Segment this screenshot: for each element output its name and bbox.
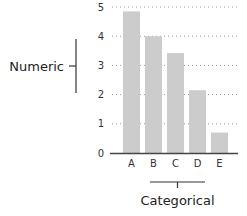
y-tick-label: 4	[98, 31, 104, 42]
numeric-label: Numeric	[9, 59, 64, 74]
x-tick-labels: ABCDE	[128, 158, 223, 169]
bar-C	[167, 53, 184, 153]
x-tick-label: A	[128, 158, 135, 169]
bar-B	[145, 36, 162, 153]
y-tick-label: 3	[98, 60, 104, 71]
bar-D	[189, 90, 206, 153]
categorical-label: Categorical	[140, 193, 214, 208]
categorical-annotation: Categorical	[140, 182, 214, 208]
numeric-annotation: Numeric	[9, 39, 76, 93]
x-tick-label: B	[150, 158, 157, 169]
y-tick-label: 2	[98, 89, 104, 100]
bar-E	[211, 133, 228, 153]
bar-chart: 012345 ABCDE Numeric Categorical	[0, 0, 247, 216]
y-tick-label: 1	[98, 118, 104, 129]
x-tick-label: D	[194, 158, 202, 169]
x-tick-label: C	[172, 158, 179, 169]
x-tick-label: E	[216, 158, 222, 169]
bars	[123, 11, 228, 153]
y-tick-labels: 012345	[98, 2, 104, 159]
y-tick-label: 5	[98, 2, 104, 13]
y-tick-label: 0	[98, 148, 104, 159]
bar-A	[123, 11, 140, 153]
